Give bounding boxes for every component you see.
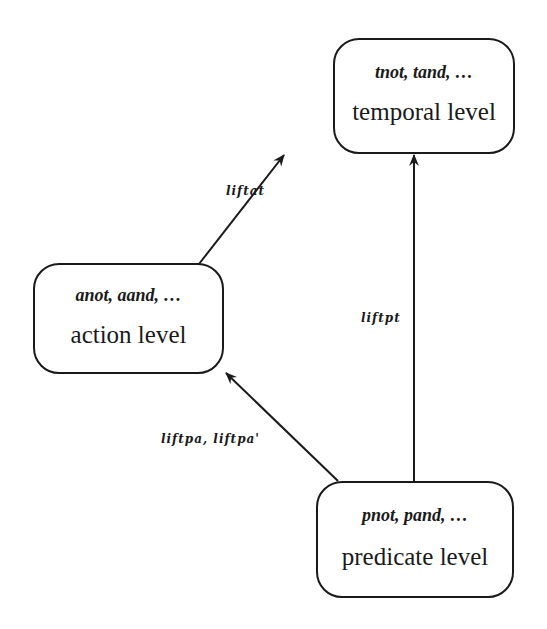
action-ops: anot, aand, … xyxy=(35,285,222,306)
temporal-ops: tnot, tand, … xyxy=(335,62,513,83)
action-level-node: anot, aand, … action level xyxy=(33,263,224,374)
edge-liftpa xyxy=(226,373,338,481)
predicate-level-node: pnot, pand, … predicate level xyxy=(316,481,514,598)
edge-label-liftpt: liftpt xyxy=(361,311,401,325)
predicate-ops: pnot, pand, … xyxy=(318,505,512,526)
edge-label-liftpa: liftpa, liftpa' xyxy=(161,432,260,446)
predicate-label: predicate level xyxy=(318,543,512,571)
edge-liftat xyxy=(199,155,284,264)
temporal-label: temporal level xyxy=(335,98,513,126)
action-label: action level xyxy=(35,321,222,349)
temporal-level-node: tnot, tand, … temporal level xyxy=(333,38,515,154)
edge-label-liftat: liftat xyxy=(226,184,265,198)
